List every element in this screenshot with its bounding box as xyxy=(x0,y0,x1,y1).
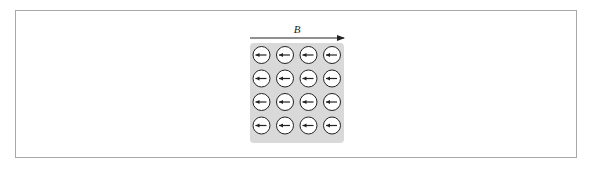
spin-site xyxy=(277,94,294,111)
spin-site xyxy=(277,70,294,87)
spin-diagram: B xyxy=(0,0,592,174)
spin-site xyxy=(300,94,317,111)
spin-site xyxy=(300,47,317,64)
spin-site xyxy=(253,47,270,64)
spin-site xyxy=(324,70,341,87)
spin-site xyxy=(253,94,270,111)
field-label: B xyxy=(294,23,301,35)
spin-site xyxy=(253,117,270,134)
spin-site xyxy=(253,70,270,87)
spin-site xyxy=(300,117,317,134)
spin-site xyxy=(277,117,294,134)
spin-site xyxy=(277,47,294,64)
spin-site xyxy=(300,70,317,87)
spin-site xyxy=(324,47,341,64)
spin-site xyxy=(324,117,341,134)
spin-site xyxy=(324,94,341,111)
